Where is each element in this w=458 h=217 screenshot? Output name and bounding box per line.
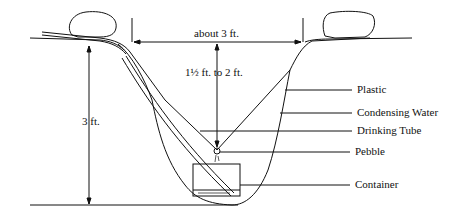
left-rock bbox=[69, 12, 116, 37]
callout-condensing-water: Condensing Water bbox=[357, 107, 438, 118]
plastic-left-flap bbox=[42, 32, 217, 150]
callout-drinking-tube: Drinking Tube bbox=[357, 125, 422, 136]
cone-depth-label: 1½ ft. to 2 ft. bbox=[185, 67, 243, 78]
callout-plastic: Plastic bbox=[357, 84, 386, 95]
callout-container: Container bbox=[355, 179, 398, 190]
container-rect bbox=[193, 164, 240, 196]
solar-still-diagram: about 3 ft. 1½ ft. to 2 ft. 3 ft. Plasti… bbox=[0, 0, 458, 217]
callout-pebble: Pebble bbox=[355, 146, 385, 157]
plastic-right bbox=[217, 38, 370, 150]
pit-depth-label: 3 ft. bbox=[82, 116, 100, 127]
right-rock bbox=[323, 11, 374, 38]
pebble bbox=[214, 148, 220, 154]
width-dimension-label: about 3 ft. bbox=[194, 28, 239, 39]
